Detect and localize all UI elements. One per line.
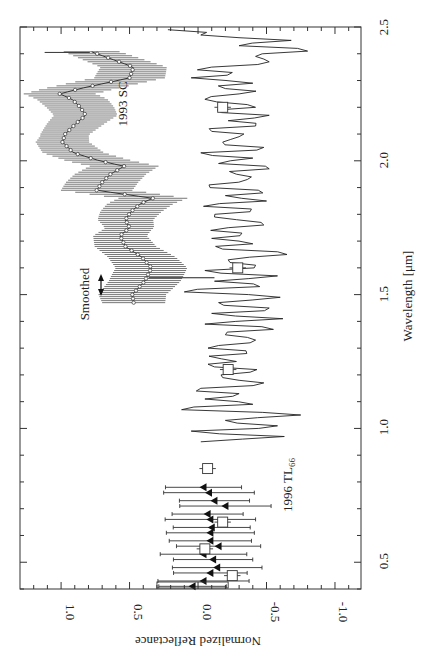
sc-point: [104, 160, 107, 163]
xtick-label: 0.5: [376, 553, 391, 569]
x-axis-title: Wavelength [μm]: [400, 251, 415, 342]
label-1996-tl66: 1996 TL66: [280, 458, 297, 512]
square-point: [200, 544, 210, 554]
sc-point: [131, 209, 134, 212]
sc-point: [76, 152, 79, 155]
sc-point: [128, 64, 131, 67]
sc-point: [76, 120, 79, 123]
sc-point: [134, 289, 137, 292]
sc-point: [116, 168, 119, 171]
sc-point: [131, 297, 134, 300]
ytick-label: 0.5: [131, 604, 146, 620]
tri-point: [204, 510, 211, 518]
plot-frame: [20, 27, 361, 589]
tl-label-sub: 66: [287, 458, 297, 468]
reflectance-figure: 1.0 0.5 0.0 -0.5 -1.0 Normalized Reflect…: [0, 0, 428, 664]
sc-point: [136, 205, 139, 208]
xtick-label: 1.0: [376, 419, 391, 435]
sc-point: [128, 76, 131, 79]
sc-point: [127, 213, 130, 216]
sc-point: [67, 96, 70, 99]
sc-point: [149, 265, 152, 268]
sc-point: [136, 253, 139, 256]
sc-point: [81, 116, 84, 119]
sc-point: [91, 84, 94, 87]
sc-point: [105, 177, 108, 180]
sc-point: [65, 144, 68, 147]
sc-point: [125, 221, 128, 224]
ytick-label: -0.5: [268, 602, 283, 623]
tl66-spectrum: [149, 30, 308, 442]
sc-point: [142, 281, 145, 284]
ytick-label: -1.0: [336, 602, 351, 623]
tri-point: [200, 483, 207, 491]
sc-point: [120, 237, 123, 240]
sc-point: [131, 293, 134, 296]
tl66-broadband: [157, 102, 246, 588]
tri-point: [209, 556, 216, 564]
sc-point: [145, 261, 148, 264]
xtick-label: 2.5: [376, 19, 391, 35]
sc-point: [124, 245, 127, 248]
sc-point: [131, 68, 134, 71]
sc-point: [120, 233, 123, 236]
sc-point: [125, 217, 128, 220]
square-point: [227, 571, 237, 581]
sc-point: [73, 100, 76, 103]
ytick-label: 1.0: [63, 604, 78, 620]
sc-point: [122, 164, 125, 167]
sc-point: [151, 197, 154, 200]
axes-box: [20, 27, 361, 589]
sc-point: [61, 140, 64, 143]
axis-ticks: [20, 27, 361, 589]
square-point: [218, 102, 228, 112]
tl-label-main: 1996 TL: [280, 467, 295, 512]
xtick-label: 2.0: [376, 152, 391, 168]
sc-point: [68, 128, 71, 131]
square-point: [218, 517, 228, 527]
ytick-label: 0.0: [200, 604, 215, 620]
y-axis-title: Normalized Reflectance: [135, 634, 261, 649]
xtick-label: 1.5: [376, 286, 391, 302]
sc-point: [89, 156, 92, 159]
sc-point: [109, 172, 112, 175]
tri-point: [215, 542, 222, 550]
sc-point: [83, 112, 86, 115]
sc-point: [72, 124, 75, 127]
tri-point: [213, 564, 220, 572]
sc-point: [73, 88, 76, 91]
sc-point: [138, 285, 141, 288]
sc-point: [122, 241, 125, 244]
sc-point: [146, 273, 149, 276]
tri-point: [206, 569, 213, 577]
sc-point: [98, 185, 101, 188]
sc-point: [63, 132, 66, 135]
sc-point: [127, 225, 130, 228]
sc-point: [95, 52, 98, 55]
sc-point: [123, 193, 126, 196]
tri-point: [200, 577, 207, 585]
sc-point: [125, 229, 128, 232]
sc-point: [117, 60, 120, 63]
sc-point: [100, 181, 103, 184]
square-point: [233, 263, 243, 273]
tri-point: [221, 502, 228, 510]
sc-point: [148, 269, 151, 272]
sc-point: [58, 92, 61, 95]
sc-point: [141, 257, 144, 260]
tl66-visible-photometry: [158, 483, 271, 590]
tl66-spectrum-line: [168, 30, 308, 442]
wavelength-tick-labels: 0.5 1.0 1.5 2.0 2.5: [376, 19, 391, 569]
sc-point: [130, 249, 133, 252]
sc-point: [69, 148, 72, 151]
sc-point: [144, 277, 147, 280]
sc-point: [106, 56, 109, 59]
reflectance-tick-labels: 1.0 0.5 0.0 -0.5 -1.0: [63, 602, 351, 623]
svg-text:1996 TL66: 1996 TL66: [280, 458, 297, 512]
sc-point: [80, 108, 83, 111]
square-point: [223, 365, 233, 375]
label-smoothed: Smoothed: [77, 267, 92, 320]
sc-point: [77, 104, 80, 107]
square-point: [203, 464, 213, 474]
tri-point: [210, 497, 217, 505]
